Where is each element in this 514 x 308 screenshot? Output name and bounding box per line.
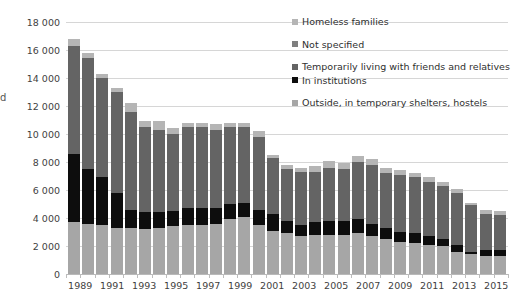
bar-segment [465, 205, 477, 251]
bar-segment [125, 210, 137, 228]
legend-swatch [292, 77, 298, 83]
bar-segment [238, 203, 250, 217]
bar-segment [480, 214, 492, 250]
x-axis-tick [365, 274, 366, 278]
bar-segment [281, 233, 293, 274]
x-axis-tick [479, 274, 480, 278]
x-axis-tick [508, 274, 509, 278]
bar-segment [295, 172, 307, 225]
bar-segment [295, 236, 307, 274]
x-axis-tick [66, 274, 67, 278]
bar-segment [323, 161, 335, 168]
x-axis-tick [422, 274, 423, 278]
bar-segment [153, 121, 165, 129]
x-axis-label: 1991 [100, 280, 124, 291]
bar-segment [267, 158, 279, 214]
axis-title-fragment: d [0, 92, 10, 108]
x-axis-tick [109, 274, 110, 278]
bar-segment [366, 165, 378, 224]
bar-column [196, 22, 208, 274]
bar-segment [380, 228, 392, 239]
bar-segment [494, 215, 506, 250]
x-axis-tick [166, 274, 167, 278]
x-axis-tick [437, 274, 438, 278]
bar-segment [309, 235, 321, 274]
x-axis-tick [209, 274, 210, 278]
bar-segment [68, 39, 80, 46]
bar-segment [451, 252, 463, 274]
bar-segment [210, 224, 222, 274]
bar-segment [352, 219, 364, 233]
bar-segment [451, 193, 463, 245]
bar-segment [352, 233, 364, 274]
legend-swatch [292, 41, 298, 47]
x-axis-label: 1997 [196, 280, 220, 291]
bar-segment [238, 127, 250, 203]
bar-segment [409, 177, 421, 233]
bar-segment [182, 208, 194, 225]
bar-segment [210, 208, 222, 223]
bar-segment [139, 127, 151, 212]
bar-column [153, 22, 165, 274]
bar-segment [139, 229, 151, 274]
bar-segment [465, 254, 477, 274]
x-axis-tick [280, 274, 281, 278]
bar-segment [437, 186, 449, 239]
bar-segment [182, 225, 194, 274]
x-axis-label: 1993 [132, 280, 156, 291]
legend-item[interactable]: Homeless families [292, 16, 514, 28]
bar-segment [96, 177, 108, 225]
x-axis-label: 2005 [324, 280, 348, 291]
bar-segment [111, 228, 123, 274]
bar-segment [224, 204, 236, 219]
legend-item[interactable]: Temporarily living with friends and rela… [292, 61, 514, 73]
y-axis-tick-label: 14 000 [27, 73, 60, 84]
bar-segment [338, 221, 350, 235]
bar-column [167, 22, 179, 274]
x-axis-tick [494, 274, 495, 278]
x-axis-tick [337, 274, 338, 278]
legend-label: Outside, in temporary shelters, hostels [302, 97, 514, 109]
bar-segment [210, 130, 222, 208]
y-axis-tick-label: 10 000 [27, 129, 60, 140]
x-axis-label: 2001 [260, 280, 284, 291]
legend-item[interactable]: Outside, in temporary shelters, hostels [292, 97, 514, 109]
y-axis-tick-label: 12 000 [27, 101, 60, 112]
x-axis-tick [408, 274, 409, 278]
bar-segment [267, 214, 279, 231]
bar-segment [352, 162, 364, 219]
bar-segment [196, 127, 208, 208]
bar-segment [323, 221, 335, 235]
legend-item[interactable]: Not specified [292, 39, 514, 51]
bar-segment [196, 225, 208, 274]
bar-segment [394, 242, 406, 274]
bar-segment [182, 127, 194, 208]
x-axis-label: 2007 [356, 280, 380, 291]
x-axis-tick [308, 274, 309, 278]
bar-column [125, 22, 137, 274]
bar-column [82, 22, 94, 274]
bar-segment [238, 217, 250, 274]
bar-segment [281, 169, 293, 221]
x-axis-labels: 1989-1991-1993-1995-1997-1999-2001-2003-… [66, 280, 508, 291]
bar-segment [111, 193, 123, 228]
legend-swatch [292, 64, 298, 70]
bar-segment [167, 226, 179, 274]
stacked-bar-chart: d 18 00016 00014 00012 00010 0008 0006 0… [0, 0, 514, 308]
bar-column [210, 22, 222, 274]
bar-segment [153, 212, 165, 227]
legend-item[interactable]: In institutions [292, 75, 514, 87]
bar-column [253, 22, 265, 274]
bar-segment [437, 239, 449, 246]
x-axis-tick [380, 274, 381, 278]
bar-column [68, 22, 80, 274]
bar-segment [295, 225, 307, 236]
bar-column [182, 22, 194, 274]
bar-column [139, 22, 151, 274]
bar-segment [366, 224, 378, 237]
bar-segment [68, 46, 80, 154]
bar-segment [96, 78, 108, 177]
x-axis-label: 2011 [420, 280, 444, 291]
legend-swatch [292, 100, 298, 106]
bar-column [111, 22, 123, 274]
